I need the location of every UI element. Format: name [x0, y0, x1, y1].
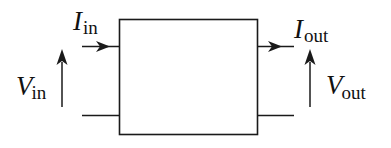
input-voltage-label: Vin: [16, 71, 47, 103]
input-current-label: Iin: [72, 6, 98, 38]
output-current-label: Iout: [293, 14, 329, 46]
two-port-diagram: Iin Vin Iout Vout: [0, 0, 391, 148]
network-block: [120, 20, 258, 135]
output-voltage-label: Vout: [326, 70, 367, 103]
